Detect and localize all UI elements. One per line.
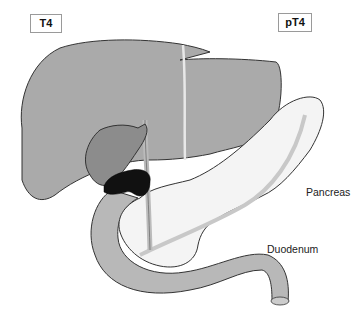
pancreas-label: Pancreas bbox=[306, 186, 350, 198]
duodenum-lumen bbox=[271, 297, 289, 305]
duodenum-label: Duodenum bbox=[267, 243, 318, 255]
anatomy-diagram bbox=[0, 0, 363, 318]
